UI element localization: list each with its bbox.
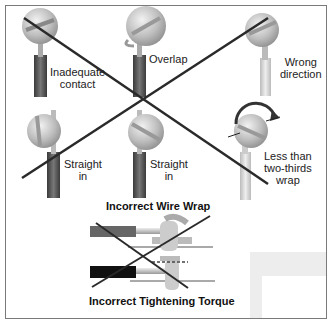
label-line: wrap	[264, 174, 312, 186]
label-line: in	[64, 170, 102, 182]
label-line: Less than	[264, 150, 312, 162]
label-line: Inadequate	[50, 66, 105, 78]
label-less-than-two-thirds: Less than two-thirds wrap	[264, 150, 312, 186]
label-line: direction	[280, 68, 322, 80]
label-straight-in-1: Straight in	[64, 158, 102, 182]
torque-assembly-lower	[90, 256, 215, 290]
label-line: Overlap	[149, 53, 188, 65]
terminal-wrong-direction	[245, 13, 279, 96]
torque-assembly-upper	[90, 217, 213, 251]
label-inadequate-contact: Inadequate contact	[50, 66, 105, 90]
terminal-overlap	[126, 6, 166, 97]
label-wrong-direction: Wrong direction	[280, 56, 322, 80]
terminal-straight-in-1	[27, 110, 61, 198]
label-line: Straight	[64, 158, 102, 170]
label-overlap: Overlap	[149, 53, 188, 65]
heading-incorrect-tightening-torque: Incorrect Tightening Torque	[89, 295, 235, 307]
heading-incorrect-wire-wrap: Incorrect Wire Wrap	[106, 200, 210, 212]
label-line: Wrong	[280, 56, 322, 68]
label-line: Straight	[150, 158, 188, 170]
terminal-straight-in-2	[128, 110, 164, 198]
label-line: contact	[50, 78, 105, 90]
label-line: two-thirds	[264, 162, 312, 174]
label-line: in	[150, 170, 188, 182]
label-straight-in-2: Straight in	[150, 158, 188, 182]
